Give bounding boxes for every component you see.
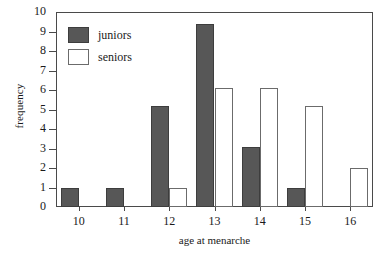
bar-juniors-11 (106, 188, 124, 208)
y-axis-tick-label: 10 (24, 5, 46, 17)
y-axis-tick-labels: 012345678910 (22, 0, 46, 254)
legend-swatch-seniors-icon (68, 49, 89, 65)
y-axis-tick-mark (49, 110, 56, 111)
y-axis-tick-label: 2 (24, 161, 46, 173)
chart-legend: juniors seniors (68, 24, 132, 68)
bar-seniors-16 (350, 168, 368, 207)
x-axis-tick-mark (260, 207, 261, 211)
y-axis-tick-mark (49, 129, 56, 130)
legend-item-juniors: juniors (68, 24, 132, 46)
bar-juniors-10 (61, 188, 79, 208)
y-axis-tick-mark (49, 71, 56, 72)
y-axis-tick-label: 1 (24, 181, 46, 193)
x-axis-tick-label: 14 (240, 214, 280, 229)
bar-seniors-14 (260, 88, 278, 207)
legend-label-juniors: juniors (98, 29, 131, 41)
x-axis-title: age at menarche (56, 234, 373, 246)
x-axis-tick-label: 15 (285, 214, 325, 229)
x-axis-tick-label: 13 (195, 214, 235, 229)
x-axis-tick-label: 10 (59, 214, 99, 229)
y-axis-tick-label: 5 (24, 103, 46, 115)
y-axis-tick-label: 4 (24, 122, 46, 134)
x-axis-tick-mark (305, 207, 306, 211)
y-axis-tick-label: 8 (24, 44, 46, 56)
x-axis-tick-label: 16 (330, 214, 370, 229)
y-axis-tick-label: 6 (24, 83, 46, 95)
y-axis-tick-mark (49, 188, 56, 189)
x-axis-tick-mark (215, 207, 216, 211)
bar-juniors-14 (242, 147, 260, 207)
y-axis-tick-label: 7 (24, 64, 46, 76)
bar-juniors-12 (151, 106, 169, 207)
bar-juniors-15 (287, 188, 305, 208)
bar-seniors-12 (169, 188, 187, 208)
y-axis-tick-label: 3 (24, 142, 46, 154)
y-axis-tick-mark (49, 168, 56, 169)
bar-seniors-15 (305, 106, 323, 207)
y-axis-tick-label: 9 (24, 25, 46, 37)
y-axis-tick-label: 0 (24, 200, 46, 212)
legend-label-seniors: seniors (98, 51, 132, 63)
x-axis-tick-label: 11 (104, 214, 144, 229)
legend-item-seniors: seniors (68, 46, 132, 68)
x-axis-tick-mark (79, 207, 80, 211)
legend-swatch-juniors-icon (68, 27, 89, 43)
bar-chart: frequency 012345678910 juniors seniors a… (0, 0, 382, 254)
x-axis-tick-mark (169, 207, 170, 211)
bar-juniors-13 (196, 24, 214, 207)
y-axis-tick-mark (49, 149, 56, 150)
bar-seniors-13 (215, 88, 233, 207)
x-axis-tick-label: 12 (149, 214, 189, 229)
y-axis-tick-mark (49, 90, 56, 91)
x-axis-tick-mark (350, 207, 351, 211)
y-axis-tick-mark (49, 32, 56, 33)
y-axis-tick-mark (49, 51, 56, 52)
x-axis-tick-mark (124, 207, 125, 211)
